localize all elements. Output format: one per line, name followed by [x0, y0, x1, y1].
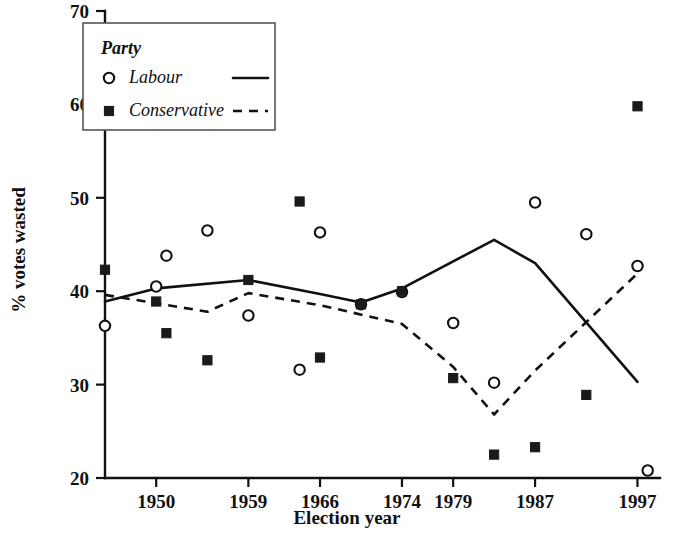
data-point-labour — [581, 229, 591, 239]
data-point-labour — [315, 227, 325, 237]
data-point-labour — [448, 318, 458, 328]
data-point-conservative — [295, 197, 304, 206]
data-series — [100, 102, 653, 476]
data-point-conservative — [397, 287, 406, 296]
data-point-conservative — [633, 102, 642, 111]
data-point-conservative — [490, 450, 499, 459]
x-tick-label: 1959 — [229, 491, 267, 512]
data-point-labour — [100, 321, 110, 331]
y-tick-label: 30 — [70, 375, 89, 396]
y-axis-title: % votes wasted — [8, 187, 29, 313]
data-point-conservative — [315, 353, 324, 362]
data-point-labour — [530, 197, 540, 207]
data-point-conservative — [162, 329, 171, 338]
x-axis-title: Election year — [293, 507, 401, 528]
legend-marker-conservative — [104, 106, 113, 115]
data-point-labour — [489, 378, 499, 388]
data-point-labour — [243, 310, 253, 320]
data-point-conservative — [152, 297, 161, 306]
legend-marker-labour — [104, 73, 114, 83]
x-tick-label: 1997 — [618, 491, 657, 512]
data-point-conservative — [203, 356, 212, 365]
x-tick-label: 1987 — [516, 491, 555, 512]
data-point-conservative — [356, 300, 365, 309]
legend-label-labour: Labour — [128, 67, 183, 87]
scatter-plot-canvas: 2030405060701950195919661974197919871997… — [0, 0, 694, 540]
legend: PartyLabourConservative — [83, 23, 275, 130]
x-tick-label: 1979 — [434, 491, 472, 512]
y-tick-label: 50 — [70, 188, 89, 209]
data-point-conservative — [531, 443, 540, 452]
data-point-conservative — [582, 390, 591, 399]
data-point-labour — [151, 281, 161, 291]
trend-line-labour — [105, 240, 638, 382]
data-point-conservative — [100, 265, 109, 274]
data-point-labour — [202, 225, 212, 235]
data-point-labour — [294, 365, 304, 375]
y-tick-label: 20 — [70, 468, 89, 489]
y-tick-label: 70 — [70, 1, 89, 22]
data-point-conservative — [244, 275, 253, 284]
data-point-labour — [643, 465, 653, 475]
chart-figure: 2030405060701950195919661974197919871997… — [0, 0, 694, 540]
trend-line-conservative — [105, 274, 638, 415]
y-tick-label: 40 — [70, 281, 89, 302]
legend-title: Party — [100, 38, 142, 58]
data-point-labour — [161, 251, 171, 261]
data-point-conservative — [449, 374, 458, 383]
x-tick-label: 1950 — [137, 491, 175, 512]
legend-label-conservative: Conservative — [129, 100, 224, 120]
data-point-labour — [632, 261, 642, 271]
